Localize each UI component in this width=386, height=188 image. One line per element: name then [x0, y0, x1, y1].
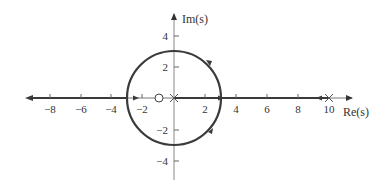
- zero-marker-icon: [155, 94, 163, 102]
- direction-arrow-icon: [316, 96, 322, 101]
- y-tick-label: 2: [163, 61, 169, 73]
- x-tick-label: −8: [44, 103, 56, 115]
- root-locus-plot: −8 −6 −4 −2 2 4 6 8 10 4 2 −2 −4 Re(s) I…: [0, 0, 386, 188]
- direction-arrow-icon: [133, 96, 139, 101]
- x-tick-label: −4: [105, 103, 117, 115]
- x-tick-label: −2: [136, 103, 148, 115]
- x-axis-label: Re(s): [343, 105, 369, 119]
- y-tick-label: 4: [163, 30, 169, 42]
- x-tick-label: 8: [295, 103, 301, 115]
- y-axis-label: Im(s): [182, 12, 208, 26]
- x-tick-label: 4: [233, 103, 239, 115]
- y-tick-label: −4: [156, 155, 168, 167]
- locus-left-arrowhead: [25, 95, 33, 101]
- x-tick-label: 2: [202, 103, 208, 115]
- y-tick-label: −2: [156, 124, 168, 136]
- x-tick-label: 6: [264, 103, 270, 115]
- x-tick-label: 10: [324, 103, 336, 115]
- x-tick-label: −6: [75, 103, 87, 115]
